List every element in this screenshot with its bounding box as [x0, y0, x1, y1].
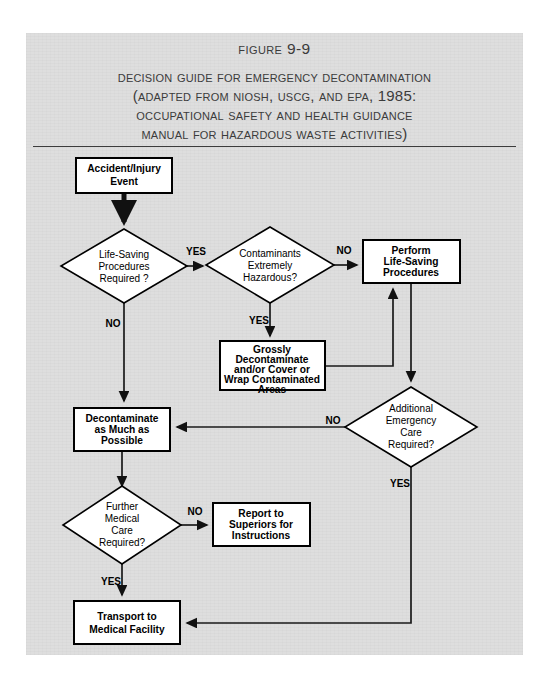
node-label: Required?: [388, 439, 435, 450]
node-label: Areas: [258, 384, 287, 395]
edge-label-yes-lifesaving: YES: [186, 246, 206, 257]
node-label: Contaminants: [239, 248, 301, 259]
node-label: Event: [110, 176, 138, 187]
node-label: Decontaminate: [85, 413, 158, 424]
node-additional-emergency-care-required[interactable]: Additional Emergency Care Required?: [345, 387, 477, 467]
node-label: Procedures: [383, 267, 439, 278]
edge-label-no-further: NO: [188, 506, 203, 517]
node-label: Possible: [101, 435, 143, 446]
edge-label-no-additional: NO: [326, 415, 341, 426]
node-label: Accident/Injury: [87, 163, 161, 174]
edge-label-no-lifesaving: NO: [106, 318, 121, 329]
node-label: Report to: [238, 508, 283, 519]
node-further-medical-care-required[interactable]: Further Medical Care Required?: [63, 486, 181, 564]
node-report-to-superiors[interactable]: Report to Superiors for Instructions: [213, 503, 310, 546]
edge-label-yes-additional: YES: [390, 478, 410, 489]
figure-root: Figure 9-9 Decision guide for emergency …: [0, 0, 547, 685]
edge-grossly-to-perform: [325, 289, 393, 366]
node-transport-to-medical-facility[interactable]: Transport to Medical Facility: [74, 601, 180, 644]
node-label: Further: [106, 501, 139, 512]
node-label: Care: [111, 525, 133, 536]
node-label: Medical: [105, 513, 139, 524]
node-label: Perform: [391, 245, 430, 256]
node-label: as Much as: [95, 424, 150, 435]
node-label: Emergency: [386, 415, 437, 426]
node-label: Life-Saving: [384, 256, 439, 267]
edge-label-yes-further: YES: [101, 576, 121, 587]
node-life-saving-procedures-required[interactable]: Life-Saving Procedures Required ?: [61, 229, 187, 303]
node-label: Additional: [389, 403, 433, 414]
node-perform-life-saving-procedures[interactable]: Perform Life-Saving Procedures: [363, 240, 460, 283]
node-label: Care: [400, 427, 422, 438]
node-contaminants-extremely-hazardous[interactable]: Contaminants Extremely Hazardous?: [206, 227, 334, 303]
node-label: Life-Saving: [99, 249, 149, 260]
node-decontaminate-as-much-as-possible[interactable]: Decontaminate as Much as Possible: [74, 408, 170, 451]
node-label: Procedures: [98, 261, 149, 272]
edge-label-yes-contaminants: YES: [249, 315, 269, 326]
node-accident-injury-event[interactable]: Accident/Injury Event: [76, 158, 172, 193]
node-label: Required ?: [100, 273, 149, 284]
node-label: Superiors for: [229, 519, 293, 530]
flowchart-canvas: YES NO NO YES NO YES NO YES Accident/Inj…: [0, 0, 547, 685]
node-label: Medical Facility: [89, 624, 165, 635]
edge-label-no-contaminants: NO: [337, 245, 352, 256]
node-label: Instructions: [232, 530, 291, 541]
node-label: Extremely: [248, 260, 292, 271]
node-label: Transport to: [97, 611, 156, 622]
node-grossly-decontaminate[interactable]: Grossly Decontaminate and/or Cover or Wr…: [220, 341, 325, 395]
node-label: Hazardous?: [243, 272, 297, 283]
node-label: Required?: [99, 537, 146, 548]
